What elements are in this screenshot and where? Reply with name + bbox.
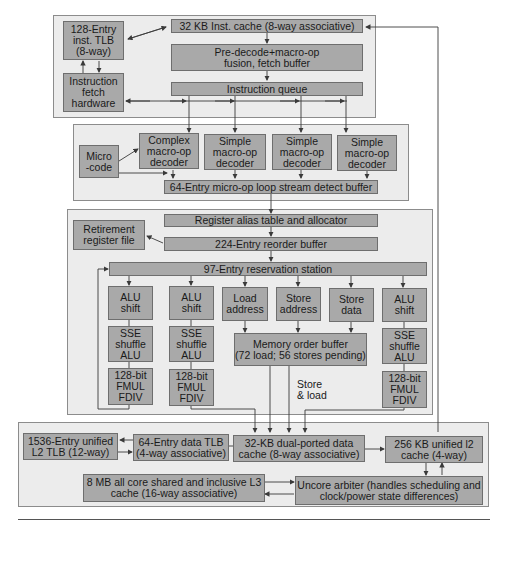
alu-shift-1-box: ALU shift: [108, 286, 153, 320]
l2-tlb-box: 1536-Entry unified L2 TLB (12-way): [23, 433, 118, 460]
uncore-arbiter-box: Uncore arbiter (handles scheduling and c…: [295, 476, 483, 505]
l2-cache-box: 256 KB unified l2 cache (4-way): [385, 436, 483, 463]
sse-alu-1-box: SSE shuffle ALU: [108, 326, 153, 362]
inst-tlb-box: 128-Entry inst. TLB (8-way): [63, 21, 124, 60]
microcode-box: Micro -code: [79, 145, 119, 178]
sse-alu-2-box: SSE shuffle ALU: [169, 326, 214, 362]
fmul-fdiv-3-box: 128-bit FMUL FDIV: [382, 371, 427, 408]
fmul-fdiv-2-box: 128-bit FMUL FDIV: [169, 369, 214, 406]
alu-shift-3-box: ALU shift: [382, 288, 427, 322]
reservation-station-box: 97-Entry reservation station: [109, 262, 427, 276]
simple-decoder-1-box: Simple macro-op decoder: [204, 134, 266, 170]
l3-cache-box: 8 MB all core shared and inclusive L3 ca…: [83, 474, 265, 502]
fmul-fdiv-1-box: 128-bit FMUL FDIV: [108, 368, 153, 405]
reorder-buffer-box: 224-Entry reorder buffer: [164, 237, 378, 251]
store-data-box: Store data: [329, 288, 374, 322]
retirement-register-file-box: Retirement register file: [73, 220, 145, 250]
alu-shift-2-box: ALU shift: [169, 286, 214, 320]
store-load-label: Store & load: [297, 379, 327, 401]
register-alias-table-box: Register alias table and allocator: [164, 214, 378, 227]
sse-alu-3-box: SSE shuffle ALU: [382, 328, 427, 364]
inst-cache-box: 32 KB Inst. cache (8-way associative): [171, 19, 363, 33]
loop-stream-buffer-box: 64-Entry micro-op loop stream detect buf…: [164, 180, 378, 194]
memory-order-buffer-box: Memory order buffer (72 load; 56 stores …: [234, 333, 367, 366]
store-address-box: Store address: [276, 287, 321, 321]
simple-decoder-3-box: Simple macro-op decoder: [337, 135, 397, 171]
bottom-divider: [18, 519, 490, 520]
instruction-queue-box: Instruction queue: [171, 82, 363, 96]
fetch-hardware-box: Instruction fetch hardware: [63, 73, 124, 112]
predecode-box: Pre-decode+macro-op fusion, fetch buffer: [171, 44, 363, 71]
complex-decoder-box: Complex macro-op decoder: [139, 133, 199, 169]
simple-decoder-2-box: Simple macro-op decoder: [272, 134, 332, 170]
data-cache-box: 32-KB dual-ported data cache (8-way asso…: [233, 435, 365, 462]
data-tlb-box: 64-Entry data TLB (4-way associative): [133, 434, 229, 461]
load-address-box: Load address: [222, 287, 268, 321]
